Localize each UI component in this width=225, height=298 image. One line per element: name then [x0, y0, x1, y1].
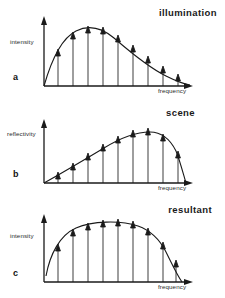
- panel-label-a: a: [13, 72, 18, 82]
- y-axis-label-c: intensity: [10, 232, 34, 239]
- curve-c: [46, 222, 182, 282]
- x-axis-label-b: frequency: [158, 184, 186, 191]
- panel-label-c: c: [13, 268, 18, 278]
- curve-a: [44, 27, 190, 86]
- x-axis-label-a: frequency: [158, 87, 186, 94]
- chart-panel-resultant: resultant intensity frequency c: [0, 196, 225, 295]
- x-axis-label-c: frequency: [158, 283, 186, 290]
- sample-arrows-a: [56, 26, 181, 86]
- figure-root: illumination intensity frequency a: [0, 0, 225, 298]
- chart-title-scene: scene: [166, 107, 195, 118]
- chart-panel-scene: scene reflectivity frequency b: [0, 97, 225, 196]
- panel-label-b: b: [13, 169, 19, 179]
- axes-b: [41, 119, 193, 186]
- y-axis-label-b: reflectivity: [7, 130, 36, 137]
- chart-title-resultant: resultant: [168, 204, 212, 215]
- chart-title-illumination: illumination: [159, 7, 217, 18]
- sample-arrows-b: [56, 128, 181, 183]
- y-axis-label-a: intensity: [10, 38, 34, 45]
- chart-panel-illumination: illumination intensity frequency a: [0, 0, 225, 99]
